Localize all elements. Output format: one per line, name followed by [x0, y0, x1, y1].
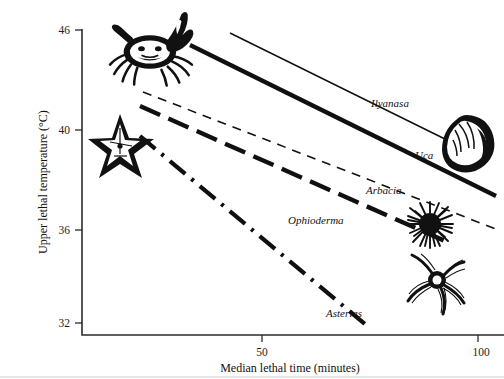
x-tick-label-50: 50	[256, 346, 268, 358]
y-tick-label-46: 46	[59, 24, 71, 36]
series-label-asterias: Asterias	[325, 307, 362, 319]
series-line-uca	[190, 45, 496, 196]
series-label-uca: Uca	[415, 149, 434, 161]
y-tick-label-32: 32	[59, 317, 71, 329]
series-line-ilyanasa	[230, 33, 449, 141]
series-label-ophioderma: Ophioderma	[288, 214, 344, 226]
snail-illustration	[442, 115, 494, 173]
brittlestar-illustration	[408, 254, 465, 314]
series-group	[140, 33, 501, 325]
y-axis-title: Upper lethal temperature (°C)	[36, 110, 50, 254]
urchin-illustration	[408, 202, 453, 248]
y-tick-label-40: 40	[59, 124, 71, 136]
crab-illustration	[110, 12, 193, 86]
chart-canvas: 46 40 36 32 50 100 Upper lethal temperat…	[0, 0, 504, 379]
starfish-illustration	[88, 114, 154, 178]
series-label-ilyanasa: Ilyanasa	[370, 97, 409, 109]
figure-container: 46 40 36 32 50 100 Upper lethal temperat…	[0, 0, 504, 379]
axis-group: 46 40 36 32 50 100 Upper lethal temperat…	[36, 24, 504, 375]
x-axis-title: Median lethal time (minutes)	[220, 361, 360, 375]
x-tick-label-100: 100	[472, 346, 490, 358]
series-label-arbacia: Arbacia	[365, 184, 402, 196]
y-tick-label-36: 36	[59, 224, 71, 236]
series-line-asterias	[140, 136, 366, 325]
